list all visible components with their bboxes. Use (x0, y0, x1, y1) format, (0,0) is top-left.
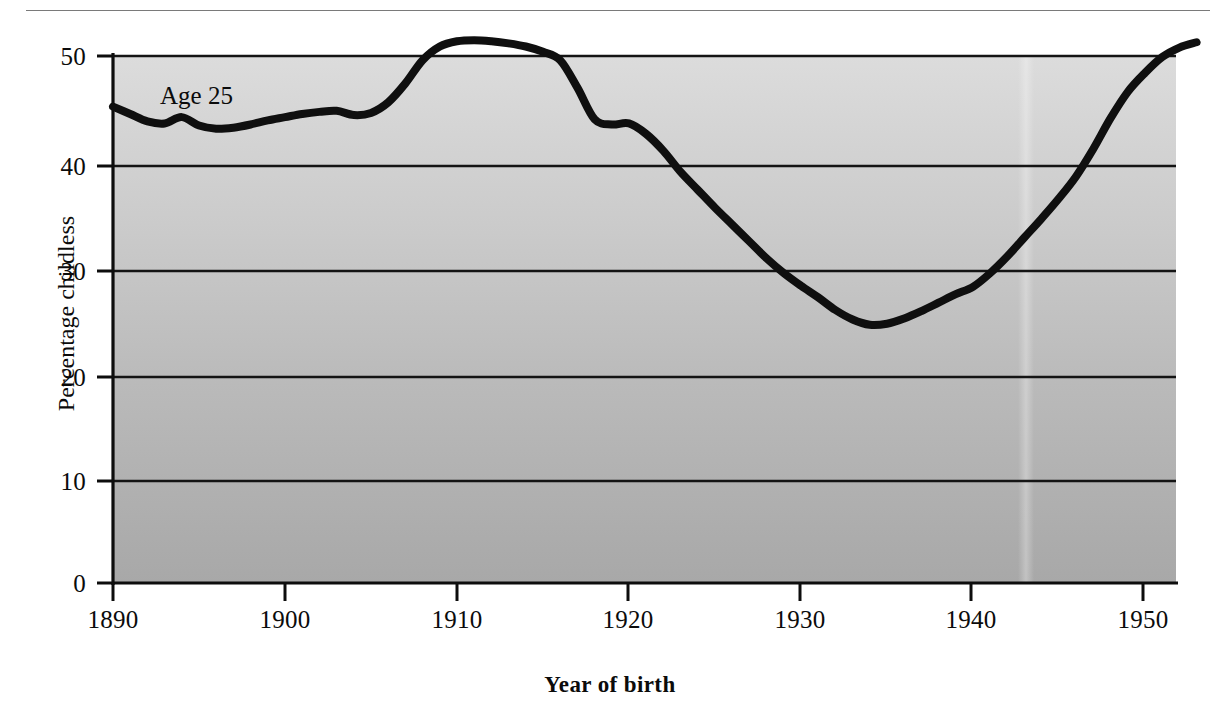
y-tick-label-10: 10 (10, 469, 86, 494)
y-tick-label-40: 40 (10, 154, 86, 179)
x-axis-ticks (113, 583, 1143, 601)
series-annotation-age-25: Age 25 (160, 82, 233, 110)
y-tick-label-50: 50 (10, 44, 86, 69)
x-tick-label-1940: 1940 (911, 607, 1031, 632)
x-tick-label-1890: 1890 (53, 607, 173, 632)
y-axis-title: Percentage childless (53, 184, 80, 444)
x-tick-label-1930: 1930 (740, 607, 860, 632)
y-tick-label-0: 0 (10, 571, 86, 596)
chart-figure: 50 40 30 20 10 0 1890 1900 1910 1920 193… (0, 0, 1220, 726)
x-tick-label-1950: 1950 (1083, 607, 1203, 632)
paper-streak-artifact (1018, 56, 1034, 583)
y-axis-ticks (97, 56, 113, 583)
x-tick-label-1910: 1910 (397, 607, 517, 632)
x-tick-label-1900: 1900 (225, 607, 345, 632)
x-axis-title: Year of birth (0, 672, 1220, 698)
x-tick-label-1920: 1920 (568, 607, 688, 632)
